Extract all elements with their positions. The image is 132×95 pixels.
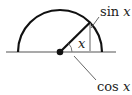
cos-label: cos x xyxy=(97,79,131,94)
angle-label: x xyxy=(78,36,86,51)
sin-leader-line xyxy=(91,17,99,28)
center-dot xyxy=(57,49,64,56)
cos-leader-line xyxy=(74,56,96,80)
diagram: sin x cos x x xyxy=(0,0,132,95)
sin-label: sin x xyxy=(100,4,131,19)
angle-arc xyxy=(69,44,72,53)
radius-line xyxy=(60,23,90,53)
diagram-canvas: sin x cos x x xyxy=(0,0,132,95)
